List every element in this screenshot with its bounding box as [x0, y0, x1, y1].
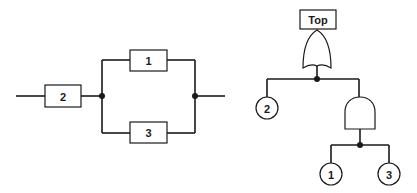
basic-event-1: 1: [320, 163, 342, 185]
block-1: 1: [130, 50, 167, 71]
block-1-label: 1: [145, 55, 151, 67]
diagram-canvas: 2 1 3 Top: [0, 0, 417, 193]
fault-tree: Top 2 1 3: [256, 10, 400, 185]
reliability-block-diagram: 2 1 3: [16, 50, 225, 143]
top-event: Top: [300, 10, 336, 29]
event-1-label: 1: [328, 169, 334, 181]
or-gate-icon: [303, 30, 331, 68]
block-2-label: 2: [60, 91, 66, 103]
event-2-label: 2: [264, 103, 270, 115]
block-3-label: 3: [145, 127, 151, 139]
basic-event-2: 2: [256, 97, 278, 119]
top-event-label: Top: [308, 14, 328, 26]
block-2: 2: [45, 85, 81, 107]
block-3: 3: [130, 122, 167, 143]
event-3-label: 3: [386, 169, 392, 181]
and-gate-icon: [345, 97, 375, 129]
basic-event-3: 3: [378, 163, 400, 185]
